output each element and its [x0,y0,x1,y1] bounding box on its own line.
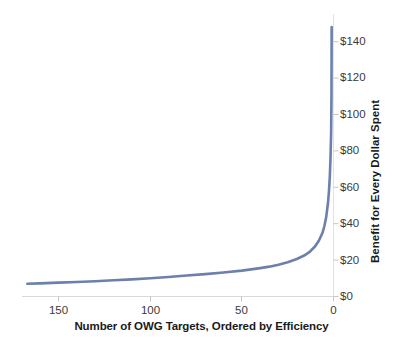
x-tick-label-100: 100 [141,305,160,317]
x-axis-tick-marks [59,297,334,302]
x-tick-label-50: 50 [235,305,248,317]
y-tick-label-140: $140 [340,36,366,48]
y-tick-label-40: $40 [340,218,359,230]
y-axis-title: Benefit for Every Dollar Spent [369,100,381,263]
series-line-benefit-per-dollar [27,27,331,284]
y-axis-tick-marks [334,42,339,297]
y-tick-label-0: $0 [340,291,353,303]
y-tick-label-100: $100 [340,109,366,121]
x-tick-label-150: 150 [49,305,68,317]
x-tick-label-0: 0 [330,305,336,317]
x-axis-title: Number of OWG Targets, Ordered by Effici… [0,320,403,332]
chart-container: $0 $20 $40 $60 $80 $100 $120 $140 150 10… [0,0,403,352]
y-tick-label-20: $20 [340,255,359,267]
y-tick-label-60: $60 [340,182,359,194]
y-tick-label-120: $120 [340,72,366,84]
y-tick-label-80: $80 [340,145,359,157]
